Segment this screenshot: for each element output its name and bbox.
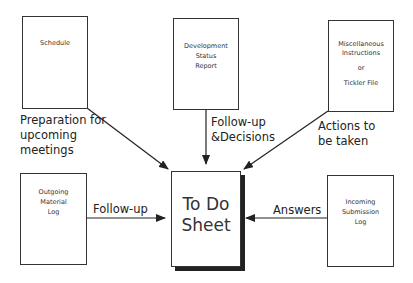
misc-instructions-box: Miscellaneous Instructions or Tickler Fi… [328, 20, 394, 112]
edge-label-follow-up-decisions: Follow-up &Decisions [211, 115, 275, 145]
box-line: Miscellaneous [329, 40, 393, 49]
box-line: Outgoing [21, 187, 86, 197]
box-line: Report [174, 61, 238, 71]
edge-label-line: Follow-up [93, 202, 148, 217]
diagram-canvas: Schedule Development Status Report Misce… [0, 0, 413, 283]
box-line: Material [21, 197, 86, 207]
center-line: To Do [172, 194, 240, 215]
edge-label-actions: Actions to be taken [318, 119, 375, 149]
edge-label-follow-up: Follow-up [93, 202, 148, 217]
edge-label-line: &Decisions [211, 130, 275, 145]
box-line: Tickler File [329, 79, 393, 88]
box-line: Status [174, 51, 238, 61]
box-line: or [329, 64, 393, 73]
box-line: Schedule [23, 38, 87, 48]
edge-label-line: upcoming [20, 128, 106, 143]
center-line: Sheet [172, 215, 240, 236]
edge-label-line: meetings [20, 143, 106, 158]
edge-label-answers: Answers [273, 203, 321, 218]
edge-label-preparation: Preparation for upcoming meetings [20, 113, 106, 158]
incoming-submission-log-box: Incoming Submission Log [327, 175, 394, 267]
box-line: Log [21, 207, 86, 217]
box-line: Log [328, 217, 393, 227]
to-do-sheet-box: To Do Sheet [171, 171, 241, 267]
outgoing-material-log-box: Outgoing Material Log [20, 173, 87, 265]
box-line: Incoming [328, 197, 393, 207]
schedule-box: Schedule [22, 16, 88, 109]
edge-label-line: Preparation for [20, 113, 106, 128]
edge-label-line: be taken [318, 134, 375, 149]
box-line: Instructions [329, 49, 393, 58]
development-status-report-box: Development Status Report [173, 18, 239, 110]
edge-label-line: Follow-up [211, 115, 275, 130]
box-line: Development [174, 41, 238, 51]
edge-label-line: Answers [273, 203, 321, 218]
box-line: Submission [328, 207, 393, 217]
edge-label-line: Actions to [318, 119, 375, 134]
